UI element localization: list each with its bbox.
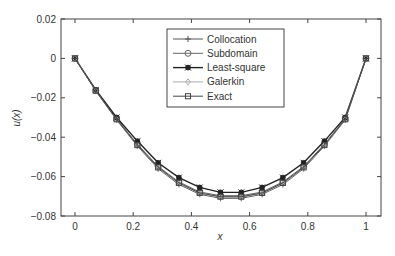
x-tick-label: 0.4 <box>184 221 198 232</box>
legend-label: Subdomain <box>207 48 258 59</box>
y-axis-label: u(x) <box>11 109 22 126</box>
chart-container: 00.20.40.60.810.020−0.02−0.04−0.06−0.08 … <box>0 0 395 256</box>
legend-label: Least-square <box>207 62 266 73</box>
y-tick-label: 0.02 <box>37 14 57 25</box>
x-axis-label: x <box>217 231 224 242</box>
legend-label: Collocation <box>207 34 256 45</box>
y-tick-label: −0.04 <box>31 132 57 143</box>
x-tick-label: 0.8 <box>301 221 315 232</box>
y-tick-label: −0.08 <box>31 211 57 222</box>
x-tick-label: 1 <box>363 221 369 232</box>
legend-label: Exact <box>207 91 232 102</box>
x-tick-label: 0.6 <box>243 221 257 232</box>
x-tick-label: 0.2 <box>126 221 140 232</box>
y-tick-label: −0.06 <box>31 171 57 182</box>
y-tick-label: −0.02 <box>31 92 57 103</box>
x-tick-label: 0 <box>72 221 78 232</box>
line-chart: 00.20.40.60.810.020−0.02−0.04−0.06−0.08 … <box>0 0 395 256</box>
legend-label: Galerkin <box>207 76 244 87</box>
y-tick-label: 0 <box>50 53 56 64</box>
legend: CollocationSubdomainLeast-squareGalerkin… <box>167 29 284 107</box>
